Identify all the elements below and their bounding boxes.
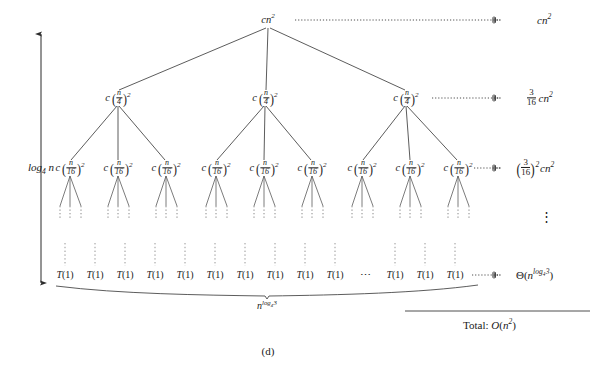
leaf-node: T(1) (206, 270, 223, 280)
cost-leader-lines (295, 20, 500, 275)
leaf-node: T(1) (176, 270, 193, 280)
leaf-node: T(1) (236, 270, 253, 280)
leaf-node: T(1) (386, 270, 403, 280)
cost-column-vertical-ellipsis: ⋮ (540, 210, 553, 223)
leaf-node: T(1) (296, 270, 313, 280)
tree-node-level2: c (n16)2 (297, 159, 326, 176)
leaf-row-ellipsis: ⋯ (360, 270, 371, 281)
edges-level-2-stubs (60, 176, 469, 206)
dotted-leaf-connectors (65, 243, 455, 266)
cost-label-level1: 316 cn2 (527, 88, 553, 107)
cost-label-leaves: Θ(nlog4 3) (516, 270, 553, 281)
leaf-node: T(1) (86, 270, 103, 280)
tree-node-level2: c (n16)2 (443, 159, 472, 176)
total-label: Total: O(n2) (463, 320, 516, 331)
tree-node-level2: c (n16)2 (395, 159, 424, 176)
leaf-node: T(1) (416, 270, 433, 280)
tree-node-level2: c (n16)2 (249, 159, 278, 176)
tree-node-level1: c (n4)2 (105, 89, 130, 106)
dotted-stubs (60, 206, 469, 219)
leaf-node: T(1) (56, 270, 73, 280)
leaf-node: T(1) (116, 270, 133, 280)
leaf-count-label: nlog4 3 (257, 301, 277, 311)
edges-level-1-2 (71, 106, 457, 160)
tree-node-root: cn2 (261, 15, 274, 26)
tree-node-level2: c (n16)2 (347, 159, 376, 176)
tree-node-level2: c (n16)2 (55, 159, 84, 176)
total-prefix: Total: (463, 319, 489, 331)
cost-label-level2: (316)2 cn2 (516, 158, 554, 178)
leaf-count-brace (56, 285, 478, 299)
depth-axis-label: log4 n (28, 162, 54, 173)
leaf-node: T(1) (266, 270, 283, 280)
tree-node-level2: c (n16)2 (151, 159, 180, 176)
recursion-tree-figure: log4 n cn2 c (n4)2 c (n4)2 c (n4)2 c (n1… (0, 0, 599, 371)
edges-level-0-1 (119, 28, 405, 90)
tree-node-level1: c (n4)2 (252, 89, 277, 106)
leaf-node: T(1) (446, 270, 463, 280)
tree-node-level2: c (n16)2 (201, 159, 230, 176)
tree-graphics (0, 0, 599, 371)
tree-node-level1: c (n4)2 (393, 89, 418, 106)
figure-caption: (d) (262, 346, 275, 357)
leaf-node: T(1) (326, 270, 343, 280)
tree-node-level2: c (n16)2 (103, 159, 132, 176)
cost-label-level0: cn2 (537, 15, 551, 26)
leaf-node: T(1) (146, 270, 163, 280)
